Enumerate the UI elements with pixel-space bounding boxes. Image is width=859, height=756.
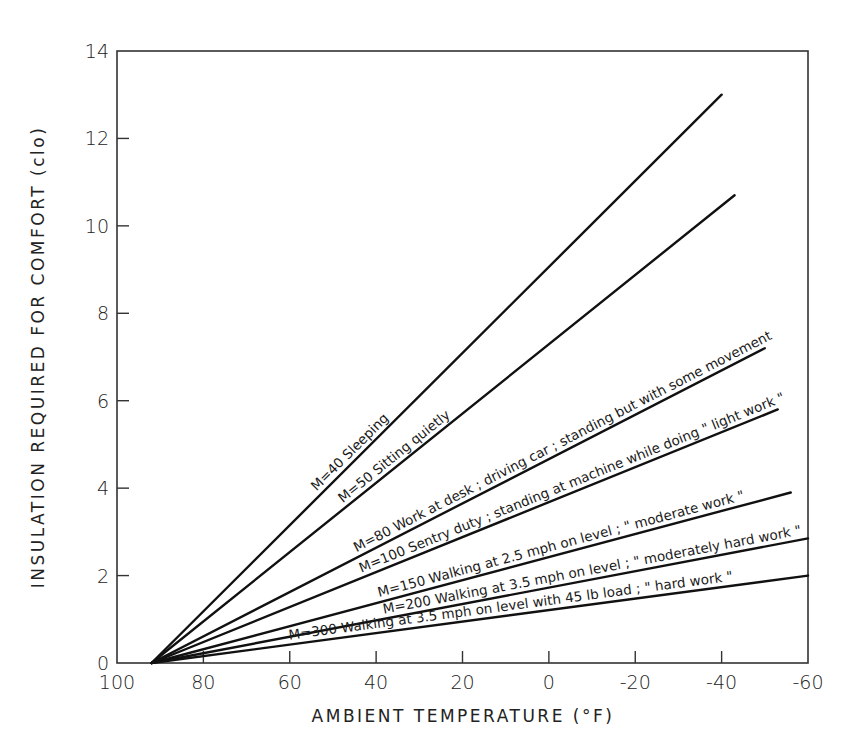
y-tick-label: 2	[97, 565, 109, 587]
y-tick-label: 4	[97, 477, 109, 499]
x-tick-label: -20	[620, 671, 651, 693]
y-tick-label: 14	[85, 40, 109, 62]
series-labels: M=40 SleepingM=50 Sitting quietlyM=80 Wo…	[287, 327, 802, 643]
x-axis-ticks: 100806040200-20-40-60	[99, 651, 824, 693]
x-tick-label: -60	[792, 671, 823, 693]
x-tick-label: 0	[543, 671, 555, 693]
x-tick-label: 40	[364, 671, 388, 693]
x-tick-label: 60	[278, 671, 302, 693]
y-tick-label: 10	[85, 215, 109, 237]
y-axis-ticks: 02468101214	[85, 40, 129, 674]
x-axis-title: AMBIENT TEMPERATURE (°F)	[312, 706, 615, 726]
y-tick-label: 12	[85, 127, 109, 149]
y-axis-title: INSULATION REQUIRED FOR COMFORT (clo)	[28, 126, 48, 589]
y-tick-label: 8	[97, 302, 109, 324]
y-tick-label: 6	[97, 390, 109, 412]
y-tick-label: 0	[97, 652, 109, 674]
insulation-vs-temperature-chart: 100806040200-20-40-60 02468101214 M=40 S…	[0, 0, 859, 756]
x-tick-label: 100	[99, 671, 135, 693]
x-tick-label: 80	[191, 671, 215, 693]
x-tick-label: -40	[706, 671, 737, 693]
series-line-4	[152, 409, 778, 663]
x-tick-label: 20	[450, 671, 474, 693]
